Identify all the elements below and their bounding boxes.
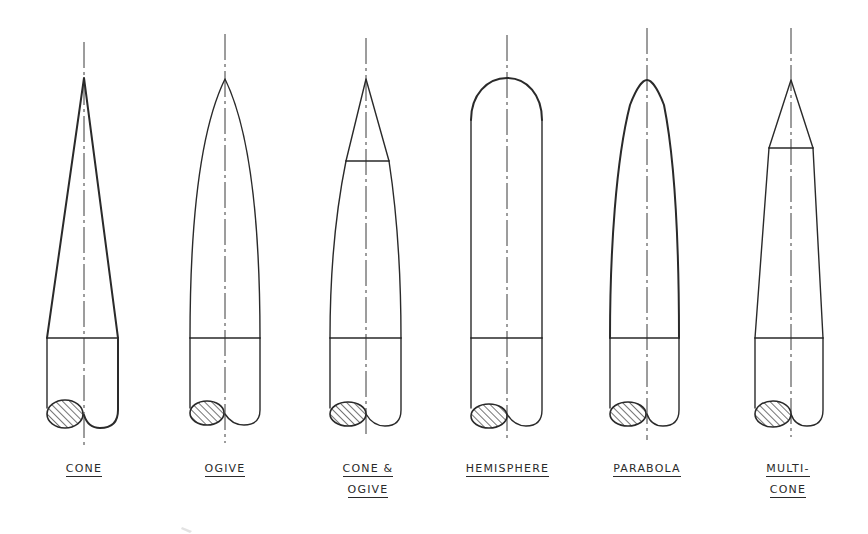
label-line: OGIVE	[205, 461, 246, 477]
body-right-tail	[791, 338, 823, 426]
label-line: CONE &	[343, 461, 394, 477]
label-line: MULTI-	[766, 461, 809, 477]
shape-cone	[47, 42, 118, 446]
label-hemisphere: HEMISPHERE	[450, 461, 565, 477]
hatched-section	[330, 402, 366, 426]
label-multi-cone: MULTI- CONE	[748, 461, 828, 498]
hatched-section	[190, 401, 224, 425]
parabola-nose-outline	[610, 80, 679, 338]
body-right-tail	[366, 338, 401, 426]
cone-tip-outline	[346, 79, 389, 161]
body-right-tail	[84, 338, 118, 428]
label-cone-ogive: CONE & OGIVE	[323, 461, 413, 498]
label-line: OGIVE	[348, 482, 389, 498]
hatched-section	[471, 404, 507, 428]
label-cone: CONE	[44, 461, 124, 477]
body-right-tail	[647, 338, 679, 426]
hatched-section	[755, 401, 791, 427]
body-right-tail	[225, 338, 260, 425]
shape-cone-ogive	[330, 38, 401, 437]
label-line: HEMISPHERE	[466, 461, 549, 477]
shape-multi-cone	[755, 28, 823, 437]
second-cone-left	[755, 148, 769, 338]
second-cone-right	[813, 148, 823, 338]
label-line: CONE	[66, 461, 102, 477]
label-line: PARABOLA	[613, 461, 681, 477]
nose-shapes-drawing	[0, 0, 868, 534]
shape-ogive	[190, 34, 260, 443]
body-right-tail	[507, 338, 542, 426]
shape-parabola	[610, 28, 679, 440]
hatched-section	[610, 402, 646, 426]
label-parabola: PARABOLA	[597, 461, 697, 477]
cone-nose-outline	[47, 78, 118, 338]
label-line: CONE	[770, 482, 806, 498]
ogive-right	[389, 161, 401, 338]
label-ogive: OGIVE	[185, 461, 265, 477]
shape-hemisphere	[471, 35, 542, 438]
ogive-left	[330, 161, 346, 338]
scan-smudge	[181, 527, 192, 533]
hatched-section	[47, 400, 83, 428]
